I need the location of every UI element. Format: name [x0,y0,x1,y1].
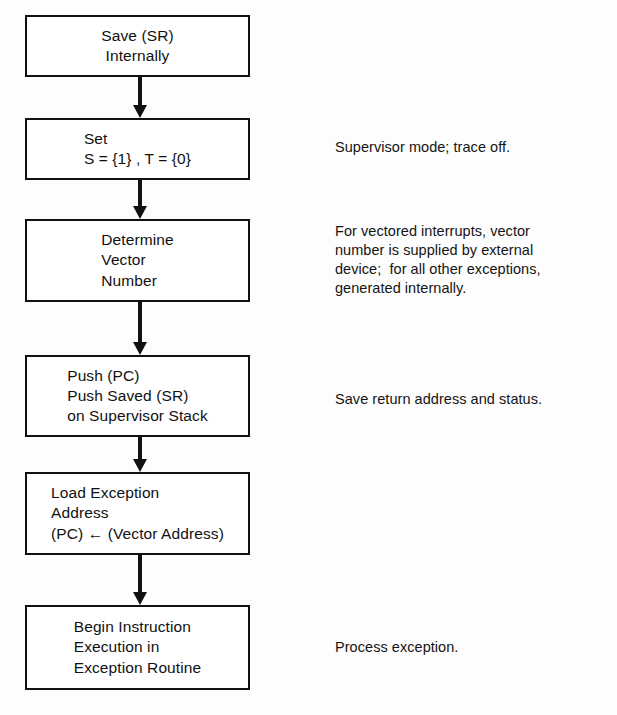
flowchart-canvas: Save (SR) InternallySet S = {1} , T = {0… [0,0,617,715]
set-status-flags-box: Set S = {1} , T = {0} [25,118,250,180]
push-pc-sr-box: Push (PC) Push Saved (SR) on Supervisor … [25,355,250,437]
save-sr-internally-box: Save (SR) Internally [25,15,250,77]
determine-vector-number-box-label: Determine Vector Number [101,230,173,290]
arrow-shaft [138,77,142,106]
arrow-head-down-icon [133,459,147,472]
set-status-flags-box-label: Set S = {1} , T = {0} [84,129,191,169]
arrow-head-down-icon [133,592,147,605]
save-sr-internally-box-label: Save (SR) Internally [101,26,173,66]
arrow-shaft [138,302,142,343]
load-exception-address-box: Load Exception Address (PC) ← (Vector Ad… [25,472,250,555]
annotation-supervisor-mode: Supervisor mode; trace off. [335,138,510,157]
arrow-head-down-icon [133,105,147,118]
load-exception-address-box-label: Load Exception Address (PC) ← (Vector Ad… [51,483,224,543]
annotation-save-return-address: Save return address and status. [335,390,542,409]
arrow-head-down-icon [133,206,147,219]
push-pc-sr-box-label: Push (PC) Push Saved (SR) on Supervisor … [67,366,208,426]
annotation-vector-number-source: For vectored interrupts, vector number i… [335,222,541,299]
begin-instruction-execution-box: Begin Instruction Execution in Exception… [25,605,250,690]
arrow-shaft [138,555,142,593]
begin-instruction-execution-box-label: Begin Instruction Execution in Exception… [74,617,202,677]
arrow-head-down-icon [133,342,147,355]
determine-vector-number-box: Determine Vector Number [25,219,250,302]
arrow-shaft [138,437,142,460]
arrow-shaft [138,180,142,207]
annotation-process-exception: Process exception. [335,638,458,657]
